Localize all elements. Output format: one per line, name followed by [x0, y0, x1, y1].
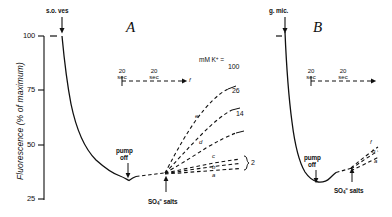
time-unit-b2: sec: [334, 74, 352, 80]
curve-f: [165, 89, 228, 173]
curve-label-d-a: d: [199, 139, 202, 145]
time-unit-b1: sec: [302, 74, 320, 80]
panel-letter-a: A: [126, 20, 135, 35]
sulfate-salts-label-a: SO4= salts: [148, 199, 177, 206]
legend-equals: =: [219, 56, 224, 63]
curve-label-b-a: b: [212, 164, 215, 170]
potassium-legend-label: mM K+ =: [199, 57, 224, 64]
panel-letter-b: B: [313, 20, 322, 35]
time-scale-a-right: 20 sec: [145, 68, 163, 81]
concentration-label-100: 100: [228, 63, 239, 70]
time-unit-a1: sec: [113, 74, 131, 80]
panel-a-graphics: [50, 17, 249, 192]
pump-off-label-a-line2: off: [120, 155, 128, 161]
panel-b-event-label: g. mic.: [269, 8, 288, 14]
concentration-label-2: 2: [251, 159, 255, 166]
curve-label-f-b: f: [370, 139, 372, 145]
sulfate-prefix-a: SO: [148, 198, 157, 205]
sulfate-salts-label-b: SO4= salts: [334, 188, 363, 195]
panel-a-event-label: s.o. ves: [46, 8, 68, 14]
curve-label-a-b: a: [374, 158, 377, 164]
concentration-label-26: 26: [232, 87, 239, 94]
sulfate-suffix-a: salts: [162, 198, 178, 205]
curve-label-c-a: c: [212, 153, 215, 159]
panel-b-graphics: [276, 17, 379, 182]
curve-b: [165, 164, 240, 174]
figure-graphics: [0, 0, 392, 217]
curve-label-f-a: f: [189, 77, 191, 83]
curve-a: [165, 169, 240, 175]
pump-off-label-b-line2: off: [308, 162, 316, 168]
y-tick-25: 25: [27, 195, 35, 203]
sulfate-suffix-b: salts: [348, 187, 364, 194]
time-unit-a2: sec: [145, 74, 163, 80]
y-axis-title: Fluorescence (% of maximum): [16, 62, 25, 180]
curve-label-a-a: a: [212, 172, 215, 178]
y-tick-75: 75: [27, 86, 35, 94]
y-axis: [38, 36, 44, 200]
concentration-label-14: 14: [236, 110, 243, 117]
time-scale-b-left: 20 sec: [302, 68, 320, 81]
time-scale-a-left: 20 sec: [113, 68, 131, 81]
figure-root: Fluorescence (% of maximum) 100 75 50 25…: [0, 0, 392, 217]
y-tick-100: 100: [23, 32, 35, 40]
curve-label-b-b: b: [372, 148, 375, 154]
y-tick-50: 50: [27, 141, 35, 149]
curve-label-e-a: e: [195, 113, 198, 119]
sulfate-prefix-b: SO: [334, 187, 343, 194]
time-scale-b-right: 20 sec: [334, 68, 352, 81]
legend-prefix: mM K: [199, 56, 216, 63]
